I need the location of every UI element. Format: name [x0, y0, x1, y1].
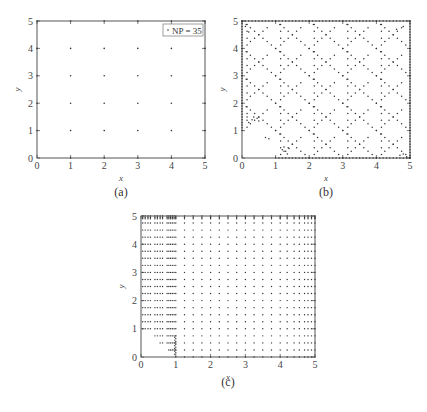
data-point: [173, 328, 174, 329]
data-point: [280, 321, 281, 322]
data-point: [304, 335, 305, 336]
data-point: [314, 321, 315, 322]
data-point: [150, 265, 151, 266]
data-point: [236, 279, 237, 280]
data-point: [299, 349, 300, 350]
data-point: [193, 356, 194, 357]
data-point: [293, 342, 294, 343]
data-point: [304, 321, 305, 322]
data-point: [307, 356, 308, 357]
data-point: [184, 349, 185, 350]
data-point: [144, 258, 145, 259]
data-point: [173, 217, 174, 218]
data-point: [162, 258, 163, 259]
data-point: [157, 215, 158, 216]
data-point: [144, 307, 145, 308]
data-point: [174, 337, 175, 338]
data-point: [157, 218, 158, 219]
data-point: [236, 321, 237, 322]
data-point: [172, 335, 173, 336]
data-point: [280, 307, 281, 308]
data-point: [184, 356, 185, 357]
data-point: [210, 217, 211, 218]
data-point: [210, 307, 211, 308]
data-point: [299, 229, 300, 230]
data-point: [173, 222, 174, 223]
data-point: [144, 300, 145, 301]
data-point: [271, 307, 272, 308]
data-point: [157, 321, 158, 322]
data-point: [147, 218, 148, 219]
data-point: [262, 300, 263, 301]
data-point: [210, 251, 211, 252]
data-point: [286, 328, 287, 329]
data-point: [147, 222, 148, 223]
data-point: [159, 265, 160, 266]
data-point: [210, 286, 211, 287]
data-point: [193, 286, 194, 287]
data-point: [154, 236, 155, 237]
data-point: [293, 217, 294, 218]
data-point: [299, 356, 300, 357]
data-point: [227, 272, 228, 273]
data-point: [314, 218, 315, 219]
data-point: [245, 286, 246, 287]
data-point: [147, 229, 148, 230]
data-point: [245, 265, 246, 266]
data-point: [236, 236, 237, 237]
data-point: [168, 236, 169, 237]
data-point: [150, 300, 151, 301]
data-point: [168, 229, 169, 230]
data-point: [159, 300, 160, 301]
data-point: [173, 307, 174, 308]
data-point: [311, 265, 312, 266]
chart-panel-c: 012345012345xy (c): [0, 0, 427, 405]
data-point: [227, 244, 228, 245]
data-point: [271, 217, 272, 218]
data-point: [293, 335, 294, 336]
data-point: [193, 222, 194, 223]
data-point: [307, 229, 308, 230]
data-point: [293, 349, 294, 350]
data-point: [262, 349, 263, 350]
data-point: [154, 300, 155, 301]
data-point: [245, 272, 246, 273]
data-point: [154, 314, 155, 315]
data-point: [253, 229, 254, 230]
data-point: [162, 265, 163, 266]
data-point: [311, 279, 312, 280]
data-point: [157, 272, 158, 273]
data-point: [219, 218, 220, 219]
data-point: [236, 349, 237, 350]
data-point: [166, 328, 167, 329]
data-point: [162, 272, 163, 273]
data-point: [144, 215, 145, 216]
data-point: [304, 229, 305, 230]
data-point: [166, 272, 167, 273]
data-point: [219, 321, 220, 322]
data-point: [236, 335, 237, 336]
data-point: [150, 307, 151, 308]
data-point: [293, 222, 294, 223]
data-point: [154, 244, 155, 245]
data-point: [166, 314, 167, 315]
data-point: [162, 293, 163, 294]
x-tick-label: 0: [139, 359, 144, 370]
data-point: [184, 251, 185, 252]
data-point: [280, 300, 281, 301]
data-point: [193, 328, 194, 329]
data-point: [286, 321, 287, 322]
data-point: [172, 307, 173, 308]
data-point: [168, 321, 169, 322]
data-point: [227, 251, 228, 252]
data-point: [210, 272, 211, 273]
data-point: [311, 244, 312, 245]
data-point: [172, 258, 173, 259]
data-point: [172, 244, 173, 245]
data-point: [201, 335, 202, 336]
data-point: [166, 215, 167, 216]
data-point: [314, 236, 315, 237]
data-point: [271, 272, 272, 273]
data-point: [173, 286, 174, 287]
data-point: [170, 236, 171, 237]
